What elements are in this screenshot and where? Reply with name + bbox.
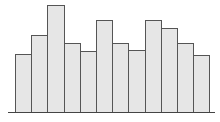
bar-chart: [0, 0, 220, 122]
bar-4: [64, 43, 81, 112]
bar-1: [15, 54, 32, 112]
bar-8: [128, 50, 146, 112]
bar-6: [96, 20, 113, 112]
bar-7: [112, 43, 129, 112]
bar-12: [193, 55, 210, 112]
bar-11: [177, 43, 194, 112]
bar-5: [80, 51, 97, 112]
x-axis-baseline: [8, 112, 215, 113]
bar-3: [47, 5, 65, 112]
bar-10: [161, 28, 178, 112]
bar-9: [145, 20, 162, 112]
bar-2: [31, 35, 48, 112]
